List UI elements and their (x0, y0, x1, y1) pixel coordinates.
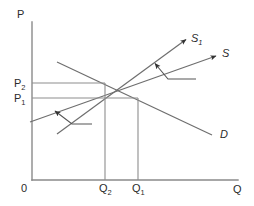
price-tick-labels-group: P2 P1 (14, 77, 26, 107)
price-tick-p2-sub: 2 (21, 83, 25, 92)
price-guides-group (32, 83, 138, 98)
axis-labels-group: P Q 0 (17, 8, 242, 195)
quantity-tick-q1-sub: 1 (141, 188, 145, 197)
origin-label: 0 (21, 182, 27, 194)
quantity-tick-q2-sub: 2 (108, 188, 112, 197)
price-tick-p1-text: P (14, 92, 21, 104)
supply-demand-figure: P Q 0 S1 S D (0, 0, 254, 206)
curve-labels-group: S1 S D (191, 32, 230, 140)
x-axis-label: Q (233, 183, 242, 195)
supply-shifted-curve (57, 40, 186, 135)
supply-label: S (222, 47, 230, 59)
supply-shifted-label: S1 (191, 32, 203, 47)
y-axis-label: P (17, 8, 24, 20)
axes-group (32, 22, 238, 180)
demand-label: D (220, 128, 228, 140)
quantity-tick-labels-group: Q2 Q1 (99, 182, 145, 197)
price-tick-p1-sub: 1 (21, 98, 25, 107)
curves-group (30, 40, 216, 136)
price-tick-p2: P2 (14, 77, 26, 92)
chart-canvas: P Q 0 S1 S D (0, 0, 254, 206)
price-tick-p1: P1 (14, 92, 26, 107)
price-tick-p2-text: P (14, 77, 21, 89)
supply-shifted-label-sub: 1 (198, 38, 202, 47)
quantity-tick-q2: Q2 (99, 182, 112, 197)
supply-curve (30, 56, 216, 122)
quantity-tick-q1: Q1 (132, 182, 145, 197)
